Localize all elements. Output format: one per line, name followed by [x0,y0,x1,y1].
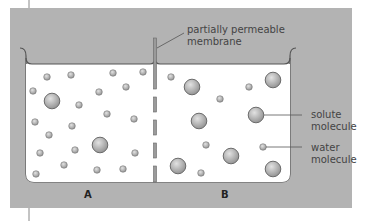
water-molecule [94,167,101,174]
solute-molecule [265,161,281,177]
solute-molecule [170,158,186,174]
water-molecule [104,111,111,118]
water-molecule [72,147,79,154]
water-label-line1: water [311,142,340,153]
solute-label-line2: molecule [311,121,357,132]
solute-molecule [44,93,60,109]
water-label-line2: molecule [311,154,357,165]
solute-molecule [92,137,108,153]
water-molecule [33,171,40,178]
water-molecule [260,144,267,151]
water-molecule [30,88,37,95]
water-molecule [76,102,83,109]
water-molecule [217,96,224,103]
water-molecule [37,150,44,157]
water-molecule [110,70,117,77]
solute-molecule [184,79,200,95]
solute-molecule [265,72,281,88]
water-molecule [140,69,147,76]
water-molecule [198,170,205,177]
water-molecule [120,166,127,173]
water-molecule [68,72,75,79]
water-molecule [203,142,210,149]
water-molecule [44,74,51,81]
water-molecule [168,74,175,81]
water-molecule [61,162,68,169]
water-molecule [32,119,39,126]
water-molecule [123,84,130,91]
side-a-label: A [84,189,92,200]
side-b-label: B [221,189,229,200]
water-molecule [131,116,138,123]
solute-label-line1: solute [311,109,342,120]
water-molecule [246,84,253,91]
water-molecule [96,89,103,96]
water-molecule [46,132,53,139]
solute-molecule [191,113,207,129]
membrane-label-line1: partially permeable [187,24,285,35]
solute-molecule [248,107,264,123]
osmosis-diagram: partially permeable membrane solute mole… [0,0,374,221]
water-molecule [132,150,139,157]
membrane-label-line2: membrane [187,36,242,47]
solute-molecule [223,148,239,164]
water-molecule [69,123,76,130]
